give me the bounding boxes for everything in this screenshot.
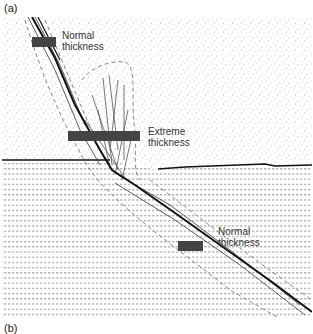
annotation-line2: thickness [218,237,260,248]
annotation-line2: thickness [62,41,104,52]
annotation-line2: thickness [148,137,190,148]
panel-b-label: (b) [4,322,17,334]
annotation-extreme-thickness: Extreme thickness [148,126,190,148]
extreme-thickness-bar [68,131,140,141]
annotation-line1: Extreme [148,126,190,137]
annotation-line1: Normal [218,226,260,237]
normal-thickness-bar-top [32,37,56,47]
panel-a-label: (a) [4,2,17,14]
normal-thickness-bar-bottom [178,241,203,251]
annotation-normal-thickness-bottom: Normal thickness [218,226,260,248]
annotation-normal-thickness-top: Normal thickness [62,30,104,52]
annotation-line1: Normal [62,30,104,41]
lower-laminated-layer [2,161,312,318]
